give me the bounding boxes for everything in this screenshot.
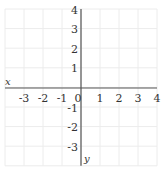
x-tick-label: -3 — [19, 92, 30, 105]
y-tick-label: 2 — [71, 43, 78, 56]
y-tick-label: -1 — [67, 102, 78, 115]
x-tick-label: -1 — [57, 92, 68, 105]
y-tick-labels: 4321-1-2-3 — [67, 4, 78, 154]
x-tick-label: 1 — [97, 92, 104, 105]
x-axis-label: x — [5, 76, 11, 87]
x-tick-label: 4 — [154, 92, 161, 105]
y-tick-label: 3 — [71, 23, 78, 36]
y-tick-label: -3 — [67, 141, 78, 154]
coordinate-plane: -3-2-101234 4321-1-2-3 x y — [0, 0, 161, 174]
y-tick-label: 1 — [71, 62, 78, 75]
y-axis-label: y — [83, 153, 90, 164]
axes — [5, 9, 157, 166]
y-tick-label: -2 — [67, 121, 78, 134]
x-tick-label: 3 — [135, 92, 142, 105]
y-tick-label: 4 — [71, 4, 78, 17]
x-tick-label: 2 — [116, 92, 123, 105]
x-tick-label: -2 — [38, 92, 49, 105]
x-tick-labels: -3-2-101234 — [19, 92, 161, 105]
